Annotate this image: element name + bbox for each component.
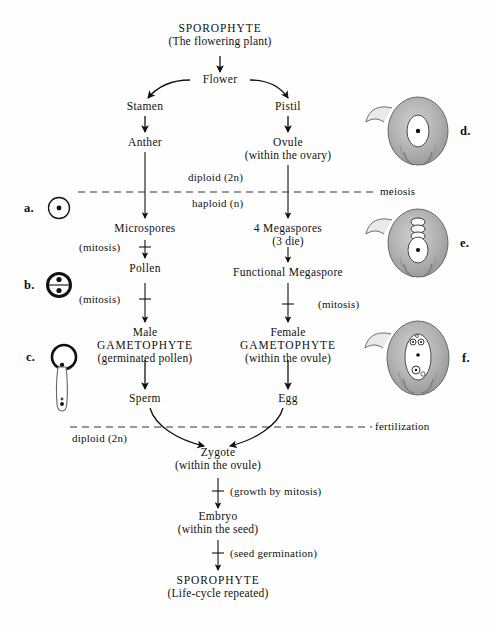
node-zygote-line1: Zygote <box>175 446 261 459</box>
ploidy-label-haploid: haploid (n) <box>192 197 243 209</box>
node-sporophyte-bottom-line1: SPOROPHYTE <box>168 574 269 587</box>
node-sporophyte-bottom-line2: (Life-cycle repeated) <box>168 587 269 600</box>
ovule-female-gametophyte-icon <box>365 321 449 395</box>
edge-label-mitosis-microspores: (mitosis) <box>79 241 120 253</box>
node-ovule: Ovule (within the ovary) <box>245 136 332 162</box>
node-embryo-line2: (within the seed) <box>178 523 259 536</box>
germinated-pollen-tube-icon <box>52 345 76 411</box>
node-female-gametophyte-line2: GAMETOPHYTE <box>240 339 336 352</box>
node-male-gametophyte: Male GAMETOPHYTE (germinated pollen) <box>97 326 193 365</box>
node-embryo-line1: Embryo <box>178 510 259 523</box>
arrow-flower-to-stamen <box>148 80 190 98</box>
figure-label-e: e. <box>460 236 469 251</box>
node-male-gametophyte-line1: Male <box>97 326 193 339</box>
node-stamen: Stamen <box>127 100 164 113</box>
figure-label-a: a. <box>24 201 34 216</box>
node-pistil-line1: Pistil <box>275 100 301 113</box>
division-line-label-meiosis: meiosis <box>380 185 415 197</box>
node-sporophyte-top: SPOROPHYTE (The flowering plant) <box>168 22 271 48</box>
figure-label-b: b. <box>24 278 35 293</box>
figure-label-c: c. <box>26 350 35 365</box>
node-microspores: Microspores <box>114 222 175 235</box>
edge-label-growth-by-mitosis: (growth by mitosis) <box>230 485 322 497</box>
node-ovule-line1: Ovule <box>245 136 332 149</box>
division-line-label-fertilization: fertilization <box>375 420 430 432</box>
node-male-gametophyte-line3: (germinated pollen) <box>97 352 193 365</box>
node-sporophyte-bottom: SPOROPHYTE (Life-cycle repeated) <box>168 574 269 600</box>
node-embryo: Embryo (within the seed) <box>178 510 259 536</box>
edge-label-mitosis-megaspore: (mitosis) <box>318 298 359 310</box>
node-flower-line1: Flower <box>203 73 238 86</box>
node-stamen-line1: Stamen <box>127 100 164 113</box>
node-megaspores-line1: 4 Megaspores <box>254 222 322 235</box>
edge-label-seed-germination: (seed germination) <box>230 547 317 559</box>
node-sperm-line1: Sperm <box>129 392 161 405</box>
ovule-four-megaspores-icon <box>366 209 448 277</box>
node-megaspores: 4 Megaspores (3 die) <box>254 222 322 248</box>
node-zygote-line2: (within the ovule) <box>175 459 261 472</box>
node-male-gametophyte-line2: GAMETOPHYTE <box>97 339 193 352</box>
microspore-cell-icon <box>49 198 70 219</box>
node-anther-line1: Anther <box>128 136 162 149</box>
ploidy-label-diploid-lower: diploid (2n) <box>72 432 127 444</box>
node-egg-line1: Egg <box>278 392 298 405</box>
node-ovule-line2: (within the ovary) <box>245 149 332 162</box>
figure-label-d: d. <box>460 124 471 139</box>
node-female-gametophyte-line3: (within the ovule) <box>240 352 336 365</box>
node-sperm: Sperm <box>129 392 161 405</box>
node-megaspores-line2: (3 die) <box>254 235 322 248</box>
node-functional-megaspore-line1: Functional Megaspore <box>233 266 343 279</box>
node-microspores-line1: Microspores <box>114 222 175 235</box>
node-pollen: Pollen <box>129 262 161 275</box>
pollen-grain-two-nuclei-icon <box>48 274 71 297</box>
node-egg: Egg <box>278 392 298 405</box>
node-functional-megaspore: Functional Megaspore <box>233 266 343 279</box>
node-female-gametophyte: Female GAMETOPHYTE (within the ovule) <box>240 326 336 365</box>
node-sporophyte-top-line1: SPOROPHYTE <box>168 22 271 35</box>
ovule-megaspore-mother-cell-icon <box>366 97 448 165</box>
node-pollen-line1: Pollen <box>129 262 161 275</box>
node-female-gametophyte-line1: Female <box>240 326 336 339</box>
node-pistil: Pistil <box>275 100 301 113</box>
node-zygote: Zygote (within the ovule) <box>175 446 261 472</box>
node-sporophyte-top-line2: (The flowering plant) <box>168 35 271 48</box>
edge-label-mitosis-pollen: (mitosis) <box>79 293 120 305</box>
arrow-flower-to-pistil <box>250 80 288 98</box>
node-flower: Flower <box>203 73 238 86</box>
node-anther: Anther <box>128 136 162 149</box>
ploidy-label-diploid-upper: diploid (2n) <box>188 171 243 183</box>
figure-label-f: f. <box>462 351 470 366</box>
diagram-canvas: SPOROPHYTE (The flowering plant) Flower … <box>0 0 493 629</box>
